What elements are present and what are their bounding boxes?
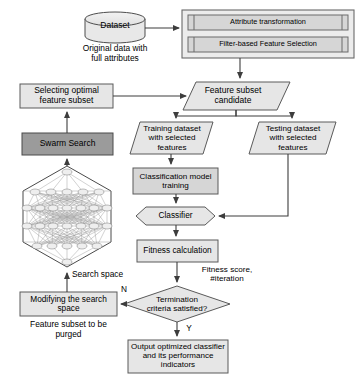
node-dataset bbox=[85, 12, 145, 43]
node-search-space-graph bbox=[22, 166, 112, 267]
node-termination-criteria bbox=[124, 286, 230, 322]
node-filter-based-feature-selection bbox=[188, 37, 348, 52]
edge-label-branch-no: N bbox=[118, 285, 130, 295]
caption-dataset: Original data with full attributes bbox=[63, 44, 167, 63]
node-swarm-search bbox=[22, 133, 113, 155]
node-fitness-calculation bbox=[137, 240, 218, 262]
node-attribute-transformation bbox=[188, 15, 348, 30]
node-selecting-optimal-feature-subset bbox=[20, 84, 113, 108]
node-classification-model-training bbox=[133, 168, 218, 194]
node-testing-dataset bbox=[249, 122, 336, 154]
node-classifier bbox=[136, 207, 215, 225]
caption-search-space: Search space bbox=[72, 270, 138, 280]
node-training-dataset bbox=[130, 122, 213, 154]
edge-label-branch-yes: Y bbox=[183, 324, 195, 334]
node-output-optimized-classifier bbox=[128, 340, 228, 373]
flowchart-diagram: Dataset Attribute transformation Filter-… bbox=[0, 0, 363, 386]
node-modifying-the-search-space bbox=[20, 292, 117, 316]
caption-feature-subset-purged: Feature subset to be purged bbox=[12, 320, 125, 339]
node-feature-subset-candidate bbox=[183, 82, 290, 110]
edge-label-fitness-score: Fitness score, #iteration bbox=[196, 265, 258, 284]
